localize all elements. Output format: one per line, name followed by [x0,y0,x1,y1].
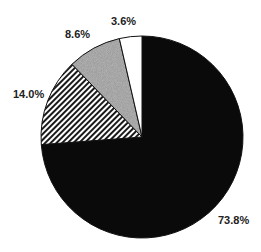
slice-label-black: 73.8% [218,214,249,226]
slice-label-hatched: 14.0% [13,88,44,100]
slice-label-gray: 8.6% [65,28,90,40]
pie-slices [41,36,243,238]
slice-label-white: 3.6% [111,15,136,27]
